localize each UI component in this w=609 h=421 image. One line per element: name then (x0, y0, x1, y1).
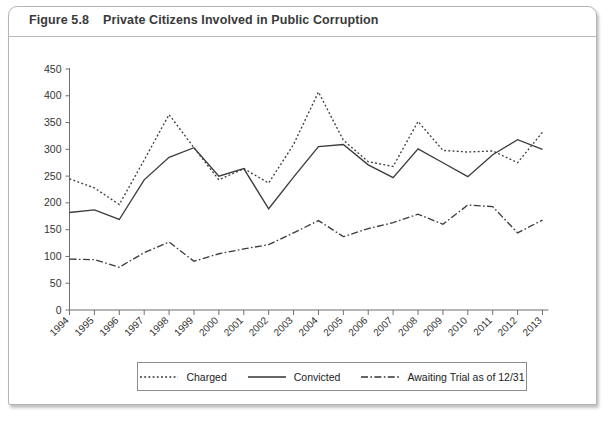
legend-label: Charged (186, 371, 226, 383)
x-tick-label: 2007 (371, 314, 395, 338)
figure-card: Figure 5.8Private Citizens Involved in P… (8, 6, 597, 405)
legend-item: Charged (139, 371, 226, 383)
legend-item: Awaiting Trial as of 12/31 (360, 371, 524, 383)
x-tick-label: 2000 (197, 314, 221, 338)
chart-legend: ChargedConvictedAwaiting Trial as of 12/… (137, 362, 527, 391)
series-line-awaiting-trial-as-of-12-31 (70, 205, 543, 267)
chart-series-group (70, 92, 543, 267)
legend-swatch-solid (247, 372, 287, 382)
page-title: Figure 5.8Private Citizens Involved in P… (29, 13, 379, 27)
series-line-charged (70, 92, 543, 204)
x-tick-label: 2012 (496, 314, 520, 338)
x-tick-label: 2001 (222, 314, 246, 338)
x-tick-label: 2005 (321, 314, 345, 338)
x-tick-label: 2006 (346, 314, 370, 338)
x-axis: 1994199519961997199819992000200120022003… (47, 310, 548, 338)
y-tick-label: 200 (44, 196, 62, 208)
legend-item: Convicted (247, 371, 341, 383)
series-line-convicted (70, 140, 543, 220)
figure-title: Private Citizens Involved in Public Corr… (103, 13, 378, 27)
figure-number: Figure 5.8 (29, 13, 89, 27)
y-tick-label: 300 (44, 143, 62, 155)
x-tick-label: 1998 (147, 314, 171, 338)
x-tick-label: 2004 (296, 314, 320, 338)
y-tick-label: 100 (44, 250, 62, 262)
x-tick-label: 1996 (97, 314, 121, 338)
x-tick-label: 1995 (72, 314, 96, 338)
y-tick-label: 0 (56, 304, 62, 316)
x-tick-label: 2011 (471, 314, 494, 337)
x-tick-label: 2008 (396, 314, 420, 338)
x-tick-label: 2009 (421, 314, 445, 338)
figure-title-bar: Figure 5.8Private Citizens Involved in P… (9, 7, 596, 37)
legend-swatch-dash-dot (360, 372, 400, 382)
y-tick-label: 400 (44, 89, 62, 101)
y-tick-label: 450 (44, 63, 62, 75)
x-tick-label: 2010 (446, 314, 470, 338)
chart-plot-area: 050100150200250300350400450 199419951996… (9, 37, 598, 405)
y-tick-label: 250 (44, 170, 62, 182)
y-tick-label: 350 (44, 116, 62, 128)
x-tick-label: 1994 (47, 314, 71, 338)
x-tick-label: 1999 (172, 314, 196, 338)
x-tick-label: 2013 (520, 314, 544, 338)
legend-label: Awaiting Trial as of 12/31 (407, 371, 524, 383)
x-tick-label: 2002 (247, 314, 271, 338)
legend-label: Convicted (294, 371, 341, 383)
x-tick-label: 2003 (271, 314, 295, 338)
y-tick-label: 150 (44, 223, 62, 235)
x-tick-label: 1997 (122, 314, 146, 338)
legend-swatch-dotted (139, 372, 179, 382)
line-chart: 050100150200250300350400450 199419951996… (9, 37, 598, 405)
y-axis: 050100150200250300350400450 (44, 63, 70, 316)
y-tick-label: 50 (50, 277, 62, 289)
